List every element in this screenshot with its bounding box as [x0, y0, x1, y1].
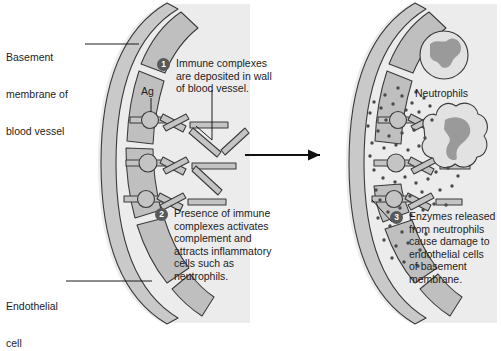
antigen-node	[387, 154, 405, 172]
callout-3-line-3: cause damage to	[409, 235, 495, 248]
basement-membrane-line-3: blood vessel	[6, 125, 68, 137]
label-endothelial-cell: Endothelial cell	[6, 275, 58, 351]
callout-1-badge: 1	[157, 58, 170, 71]
callout-1-line-2: are deposited in wall	[176, 70, 272, 83]
antigen-node	[139, 154, 157, 172]
callout-2-line-6: neutrophils.	[174, 270, 271, 283]
callout-3-line-4: endothelial cells	[409, 248, 495, 261]
basement-membrane-line-2: membrane of	[6, 88, 68, 100]
endothelial-cell-line-2: cell	[6, 337, 58, 349]
progression-arrow	[245, 150, 320, 161]
basement-membrane-line-1: Basement	[6, 51, 68, 63]
callout-3-line-5: of basement	[409, 260, 495, 273]
callout-1-text: Immune complexes are deposited in wall o…	[176, 57, 272, 95]
label-basement-membrane: Basement membrane of blood vessel	[6, 26, 68, 150]
antigen-node	[142, 112, 159, 129]
callout-2-line-1: Presence of immune	[174, 207, 271, 220]
neutrophil-circulating	[420, 31, 468, 79]
callout-3-line-6: membrane.	[409, 273, 495, 286]
callout-2-line-3: complement and	[174, 232, 271, 245]
antigen-node	[138, 191, 155, 208]
callout-2-line-2: complexes activates	[174, 220, 271, 233]
label-antigen: Ag	[141, 85, 154, 97]
callout-2-badge: 2	[155, 208, 168, 221]
callout-1-line-1: Immune complexes	[176, 57, 272, 70]
callout-2-text: Presence of immune complexes activates c…	[174, 207, 271, 283]
callout-1-line-3: of blood vessel.	[176, 82, 272, 95]
label-neutrophils: Neutrophils	[415, 87, 468, 99]
callout-3-text: Enzymes released from neutrophils cause …	[409, 210, 495, 286]
callout-3-badge: 3	[390, 211, 403, 224]
callout-3-line-1: Enzymes released	[409, 210, 495, 223]
callout-3-line-2: from neutrophils	[409, 223, 495, 236]
callout-2-line-4: attracts inflammatory	[174, 245, 271, 258]
antigen-node	[386, 191, 403, 208]
endothelial-cell-line-1: Endothelial	[6, 300, 58, 312]
antigen-node	[390, 112, 407, 129]
callout-2-line-5: cells such as	[174, 257, 271, 270]
